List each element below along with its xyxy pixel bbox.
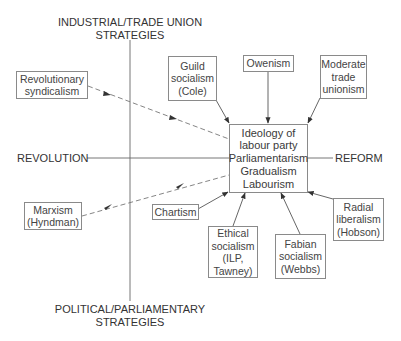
bottom-axis-label-line: POLITICAL/PARLIAMENTARY [40,303,220,316]
arrow-radial [308,192,333,199]
central-line: Parliamentarism [229,152,308,165]
box-line: trade [321,71,365,84]
box-line: socialism [171,72,214,85]
central-line: Labourism [229,178,308,191]
top-axis-label: INDUSTRIAL/TRADE UNION STRATEGIES [40,16,220,42]
figure-caption-clipped [18,334,318,341]
arrow-fabian [281,193,300,234]
box-line: Guild [171,60,214,73]
box-line: socialism [211,240,254,253]
arrow-chartism [198,192,228,209]
box-line: Fabian [279,238,322,251]
box-line: (Hobson) [336,226,380,239]
bottom-axis-label-line: STRATEGIES [40,316,220,329]
box-line: Marxism [27,204,79,217]
box-line: Radial [336,201,380,214]
arrow-ethical [233,193,245,226]
box-line: (Hyndman) [27,216,79,229]
left-axis-label: REVOLUTION [17,152,89,165]
diagram-connectors [0,0,401,341]
top-axis-label-line: STRATEGIES [40,29,220,42]
central-line: Ideology of [229,127,308,140]
arrowhead-icon [103,91,111,96]
box-line: Tawney) [211,265,254,278]
arrow-moderate [308,98,320,123]
box-guild-socialism: Guild socialism (Cole) [168,56,217,101]
box-line: socialism [279,250,322,263]
box-line: Owenism [247,57,291,70]
box-line: (Webbs) [279,263,322,276]
box-line: Chartism [154,206,196,219]
arrow-guild [216,100,229,123]
box-line: (Cole) [171,85,214,98]
arrowhead-icon [169,115,177,120]
box-fabian-socialism: Fabian socialism (Webbs) [275,234,326,279]
bottom-axis-label: POLITICAL/PARLIAMENTARY STRATEGIES [40,303,220,329]
box-line: (ILP, [211,252,254,265]
box-radial-liberalism: Radial liberalism (Hobson) [333,198,384,241]
box-revolutionary-syndicalism: Revolutionary syndicalism [16,71,88,99]
right-axis-label: REFORM [335,152,383,165]
top-axis-label-line: INDUSTRIAL/TRADE UNION [40,16,220,29]
box-line: unionism [321,83,365,96]
central-line: labour party [229,139,308,152]
central-line: Gradualism [229,165,308,178]
box-ethical-socialism: Ethical socialism (ILP, Tawney) [208,226,258,278]
box-line: Ethical [211,227,254,240]
box-line: Moderate [321,58,365,71]
box-chartism: Chartism [152,204,199,220]
box-line: liberalism [336,213,380,226]
box-line: syndicalism [20,85,84,98]
box-marxism: Marxism (Hyndman) [24,202,82,230]
central-ideology-box: Ideology of labour party Parliamentarism… [229,124,308,193]
box-owenism: Owenism [243,55,294,72]
box-moderate-trade-unionism: Moderate trade unionism [320,55,367,99]
box-line: Revolutionary [20,73,84,86]
